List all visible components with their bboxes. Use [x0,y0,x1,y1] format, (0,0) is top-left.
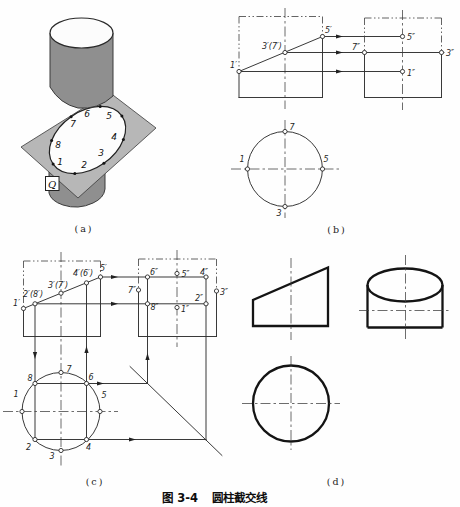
label-a-3: 3 [98,148,104,158]
c-label-8pp: 8″ [151,303,159,312]
c-arrow-chord-top [97,381,104,385]
d-side-view-body [368,285,443,328]
b-label-3pp: 3″ [446,49,454,58]
caption-c: (c) [86,476,105,487]
b-label-7: 7 [289,123,295,132]
figure-title: 圆柱截交线 [212,491,268,505]
c-point-2 [33,437,37,441]
c-label-46p: 4′(6′) [73,269,93,278]
c-point-7 [59,370,63,374]
c-point-28p [33,302,37,306]
c-label-5pp: 5″ [182,270,190,279]
b-point-7 [283,129,287,133]
c-point-37p [59,291,63,295]
c-label-28p: 2′(8′) [23,290,43,299]
b-label-5: 5 [323,155,328,164]
c-point-7pp [136,288,140,292]
figure-3-4: 1 2 3 4 5 6 7 8 Q [0,0,460,507]
section-point-8 [50,139,53,142]
c-point-3 [59,448,63,452]
caption-d: (d) [327,476,347,487]
c-label-7: 7 [66,365,72,374]
c-arrow-down-28 [33,352,37,359]
c-label-1p: 1′ [13,299,20,308]
label-a-5: 5 [106,111,112,121]
panel-b-projection: 1′ 3′(7′) 5′ 5″ 7″ 3″ 1″ 7 1 5 3 [230,8,454,218]
c-label-5: 5 [101,391,106,400]
label-a-6: 6 [84,109,90,119]
b-point-5p [320,34,324,38]
c-arrow-top [111,275,118,279]
d-side-view-ellipse [368,269,443,302]
c-label-1pp: 1″ [181,305,189,314]
c-point-6pp [145,275,149,279]
c-point-8pp [145,302,149,306]
b-label-7pp: 7″ [352,43,360,52]
c-point-1pp [175,305,179,309]
b-point-1 [245,167,249,171]
b-label-3: 3 [276,209,281,218]
c-arrow-chord-bottom [129,437,136,441]
c-point-46p [84,281,88,285]
c-point-5pp [175,271,179,275]
caption-a: (a) [74,223,93,234]
panel-c-projection: 1′ 2′(8′) 3′(7′) 4′(6′) 5′ 6″ 5″ 4″ 7″ 3… [3,250,228,468]
section-point-5 [120,114,123,117]
c-label-6: 6 [88,373,93,382]
b-label-1: 1 [239,155,244,164]
c-point-4 [84,437,88,441]
c-label-5p: 5′ [100,264,107,273]
panel-a-pictorial: 1 2 3 4 5 6 7 8 Q [21,18,156,207]
figure-number: 图 3-4 [162,491,198,505]
section-point-1 [52,163,55,166]
c-point-1 [20,409,24,413]
caption-b: (b) [327,224,347,235]
c-miter-line-45 [130,367,222,456]
b-point-3pp [439,50,443,54]
label-a-2: 2 [81,160,87,170]
b-label-1p: 1′ [230,61,237,70]
c-arrow-up-46 [84,346,88,353]
c-label-7pp: 7″ [128,286,136,295]
cylinder-top-face [50,18,113,48]
section-point-3 [102,162,105,165]
label-a-7: 7 [70,119,76,129]
label-a-8: 8 [55,140,61,150]
d-front-view-outline [253,268,328,327]
plane-label-q: Q [48,179,56,190]
b-point-37p [283,50,287,54]
label-a-4: 4 [111,132,117,142]
b-label-5pp: 5″ [407,33,415,42]
c-label-3: 3 [49,452,54,461]
b-point-5 [320,167,324,171]
b-point-1p [237,69,241,73]
c-arrow-bottom [111,302,118,306]
c-label-4pp: 4″ [200,268,208,277]
c-point-2pp [204,302,208,306]
c-label-2: 2 [26,443,31,452]
c-point-3pp [214,289,218,293]
figure-page: 1 2 3 4 5 6 7 8 Q [0,0,460,507]
c-label-6pp: 6″ [150,268,158,277]
c-point-5 [98,409,102,413]
c-label-8: 8 [27,374,32,383]
b-label-37p: 3′(7′) [262,42,282,51]
label-a-1: 1 [57,157,63,167]
b-point-7pp [362,50,366,54]
c-point-8 [33,381,37,385]
section-point-4 [122,138,125,141]
panel-d-result-views [242,255,451,450]
c-label-4: 4 [86,443,91,452]
c-label-1: 1 [13,390,18,399]
b-label-1pp: 1″ [407,69,415,78]
c-point-5p [98,275,102,279]
b-arrow-1 [336,69,343,73]
c-point-6 [84,381,88,385]
b-point-5pp [400,34,404,38]
c-point-1p [21,306,25,310]
b-arrow-5 [336,34,343,38]
c-label-2pp: 2″ [195,294,203,303]
b-arrow-37 [336,50,343,54]
c-label-37p: 3′(7′) [48,281,68,290]
b-point-3 [283,204,287,208]
